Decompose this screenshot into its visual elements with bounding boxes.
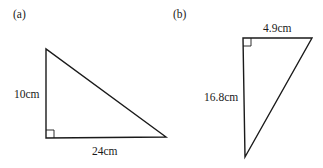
figure-a: (a) 10cm 24cm bbox=[13, 8, 166, 157]
diagram-canvas: (a) 10cm 24cm (b) 4.9cm 16.8cm bbox=[0, 0, 323, 168]
triangle-b bbox=[243, 38, 312, 157]
side-a-horizontal-label: 24cm bbox=[92, 145, 118, 157]
figure-b: (b) 4.9cm 16.8cm bbox=[173, 8, 312, 157]
side-b-horizontal-label: 4.9cm bbox=[263, 22, 291, 34]
side-b-vertical-label: 16.8cm bbox=[204, 91, 238, 103]
right-angle-marker-b bbox=[243, 38, 251, 46]
figure-b-label: (b) bbox=[173, 8, 187, 21]
triangle-a bbox=[46, 49, 166, 138]
figure-a-label: (a) bbox=[13, 8, 26, 21]
right-angle-marker-a bbox=[46, 130, 54, 138]
side-a-vertical-label: 10cm bbox=[14, 88, 40, 100]
